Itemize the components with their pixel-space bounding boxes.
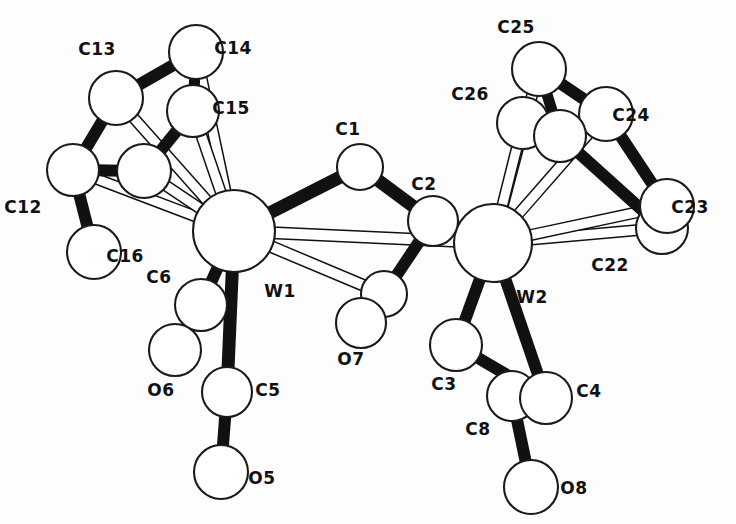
atom-w1 <box>193 190 275 272</box>
atom-label-c26: C26 <box>451 84 489 104</box>
atom-c5 <box>202 367 252 417</box>
atom-label-c3: C3 <box>431 374 456 394</box>
atom-c4 <box>520 372 572 424</box>
atom-c16 <box>117 144 171 198</box>
atom-o5 <box>194 445 248 499</box>
atom-label-c24: C24 <box>612 105 650 125</box>
atom-w2 <box>454 204 532 282</box>
atom-c1 <box>337 144 383 190</box>
atom-label-o8: O8 <box>560 478 587 498</box>
atom-label-c25: C25 <box>497 17 535 37</box>
atom-c3 <box>430 319 482 371</box>
ortep-structure-figure: W1W2C1C2O7C5O5C6O6C3C8C4O8C12C13C14C15C1… <box>0 0 736 524</box>
atom-c25 <box>512 42 566 96</box>
atom-label-c23: C23 <box>671 197 709 217</box>
atom-label-c12: C12 <box>4 197 42 217</box>
atom-label-o6: O6 <box>147 380 174 400</box>
atom-label-w1: W1 <box>264 281 296 301</box>
atom-o8 <box>504 460 558 514</box>
atom-label-c1: C1 <box>335 119 360 139</box>
atom-c12 <box>47 144 99 196</box>
molecular-structure-canvas: W1W2C1C2O7C5O5C6O6C3C8C4O8C12C13C14C15C1… <box>0 0 736 524</box>
atom-label-c8: C8 <box>465 419 490 439</box>
atom-c6 <box>175 279 227 331</box>
atom-c2 <box>408 196 458 246</box>
atom-c13 <box>89 71 143 125</box>
atom-o6 <box>149 324 201 376</box>
solid-bond-W1-C5 <box>228 268 232 371</box>
solid-bond-C5-O5 <box>223 413 226 449</box>
atom-label-c22: C22 <box>591 255 629 275</box>
atom-label-c4: C4 <box>576 381 601 401</box>
atom-c26b <box>534 110 586 162</box>
atom-label-c13: C13 <box>78 39 116 59</box>
atom-label-c14: C14 <box>214 38 252 58</box>
atom-label-o7: O7 <box>337 349 364 369</box>
atom-label-o5: O5 <box>248 468 275 488</box>
atom-label-w2: W2 <box>516 287 548 307</box>
atom-label-c16: C16 <box>106 246 144 266</box>
atom-label-c2: C2 <box>411 174 436 194</box>
atom-label-c5: C5 <box>255 380 280 400</box>
atom-label-c15: C15 <box>212 98 250 118</box>
atom-label-c6: C6 <box>146 267 171 287</box>
atom-o7 <box>336 298 386 348</box>
